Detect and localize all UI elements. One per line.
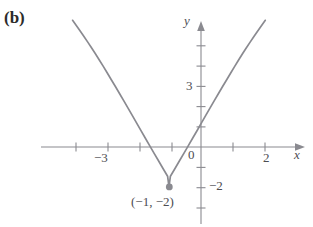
figure-panel-b: (b) xyxy=(0,0,313,227)
x-tick-label-neg3: −3 xyxy=(94,150,108,166)
y-tick-label-neg2: −2 xyxy=(209,178,223,194)
vertex-coordinate-label: (−1, −2) xyxy=(131,194,174,210)
x-axis-label: x xyxy=(294,147,300,163)
vertex-point-marker xyxy=(166,184,173,191)
x-tick-label-2: 2 xyxy=(263,150,270,166)
y-axis-arrowhead xyxy=(197,21,205,31)
y-tick-label-3: 3 xyxy=(186,78,193,94)
origin-label-0: 0 xyxy=(188,147,195,163)
y-axis-label: y xyxy=(184,13,190,29)
parabola-plot xyxy=(0,0,313,227)
